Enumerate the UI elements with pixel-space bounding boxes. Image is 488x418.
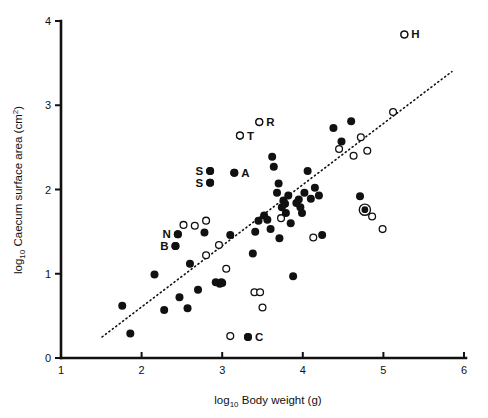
data-point-open [310,234,317,241]
data-point-labelled-b [171,242,179,250]
x-tick-label: 6 [461,364,467,376]
x-tick-label: 4 [300,364,306,376]
point-label-c: C [255,331,263,343]
y-tick-label: 1 [45,268,51,280]
y-tick-label: 2 [45,184,51,196]
regression-fit-line [102,72,452,337]
data-point-open [278,215,285,222]
data-point-filled [186,260,194,268]
point-label-s: S [195,177,203,189]
data-point-filled [249,250,257,258]
axes-group: 12345601234 [45,15,467,376]
data-point-open [180,221,187,228]
data-point-labelled-s [206,167,214,175]
data-point-filled [300,189,308,197]
data-point-filled [356,192,364,200]
data-point-open [336,146,343,153]
point-label-b: B [160,240,168,252]
plot-canvas: HRTASSNBC 12345601234 log10 Body weight … [0,0,488,418]
data-point-filled [318,231,326,239]
y-tick-label: 0 [45,352,51,364]
data-point-filled [126,330,134,338]
data-point-open [350,152,357,159]
data-point-filled [295,196,303,204]
point-label-a: A [241,167,249,179]
data-point-open [369,213,376,220]
data-point-filled [150,271,158,279]
data-point-filled [267,225,275,233]
data-point-filled [200,228,208,236]
data-point-open [364,147,371,154]
data-point-open [203,217,210,224]
data-point-labelled-c [244,333,252,341]
data-point-open [357,134,364,141]
data-point-filled [268,153,276,161]
x-axis-title: log10 Body weight (g) [214,394,322,409]
data-point-filled [289,272,297,280]
x-tick-label: 5 [380,364,386,376]
data-point-filled [284,191,292,199]
data-point-filled [287,219,295,227]
data-point-filled [175,293,183,301]
data-point-filled [304,167,312,175]
data-point-filled [273,189,281,197]
data-point-filled [194,286,202,294]
data-points-group [118,31,408,341]
point-labels-group: HRTASSNBC [160,28,420,342]
y-axis-title: log10 Caecum surface area (cm2) [11,106,27,274]
scatter-plot-figure: HRTASSNBC 12345601234 log10 Body weight … [0,0,488,418]
y-tick-label: 3 [45,99,51,111]
data-point-open [223,265,230,272]
data-point-filled [281,200,289,208]
data-point-filled [275,180,283,188]
data-point-filled [347,117,355,125]
data-point-open [216,242,223,249]
data-point-open [390,109,397,116]
data-point-filled [251,228,259,236]
data-point-labelled-a [230,169,238,177]
data-point-bullseye [359,204,370,215]
data-point-filled [160,306,168,314]
data-point-filled [315,191,323,199]
point-label-h: H [411,28,419,40]
point-label-n: N [163,228,171,240]
data-point-filled [329,124,337,132]
data-point-open [227,333,234,340]
point-label-r: R [266,116,275,128]
point-label-s: S [195,165,203,177]
data-point-filled [226,231,234,239]
x-tick-label: 2 [139,364,145,376]
data-point-open [191,222,198,229]
data-point-open [379,226,386,233]
data-point-filled [307,195,315,203]
data-point-labelled-r [256,119,263,126]
data-point-filled [270,163,278,171]
x-tick-label: 1 [58,364,64,376]
data-point-open [203,252,210,259]
data-point-open [257,289,264,296]
data-point-filled [311,184,319,192]
data-point-filled [298,209,306,217]
data-point-open [259,304,266,311]
data-point-labelled-s [206,179,214,187]
data-point-labelled-h [401,31,408,38]
data-point-filled [218,279,226,287]
data-point-filled [184,304,192,312]
data-point-filled [275,234,283,242]
y-tick-label: 4 [45,15,51,27]
data-point-labelled-n [174,230,182,238]
point-label-t: T [247,130,254,142]
data-point-filled [263,216,271,224]
x-tick-label: 3 [219,364,225,376]
data-point-filled [337,137,345,145]
data-point-labelled-t [237,132,244,139]
data-point-filled [118,302,126,310]
